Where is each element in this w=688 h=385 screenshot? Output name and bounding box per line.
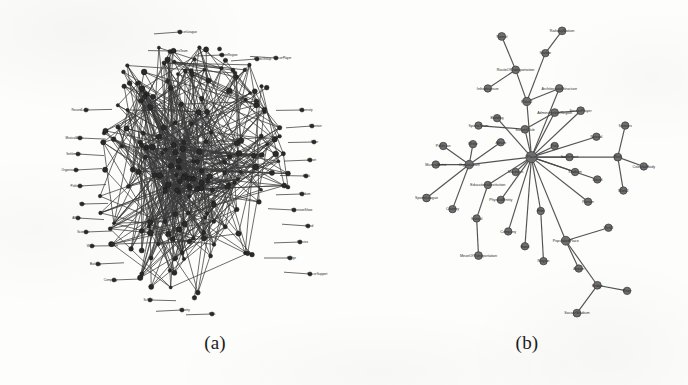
svg-text:Mountain: Mountain: [309, 124, 322, 128]
svg-text:AdminRegion: AdminRegion: [219, 53, 238, 57]
svg-text:Place2: Place2: [521, 100, 532, 104]
svg-text:Organisation: Organisation: [459, 163, 480, 167]
svg-text:SoccerPlayer: SoccerPlayer: [273, 56, 291, 60]
svg-text:Bridge: Bridge: [592, 284, 603, 288]
svg-text:Book: Book: [303, 174, 311, 178]
svg-text:Building: Building: [490, 116, 503, 120]
panel-a-dense-graph: SoccerLeagueSportsTeamAdminRegionEthnicG…: [36, 18, 348, 328]
figure-root: SoccerLeagueSportsTeamAdminRegionEthnicG…: [0, 0, 688, 385]
svg-text:Park: Park: [551, 144, 559, 148]
svg-text:Band: Band: [521, 245, 530, 249]
caption-panel-b: (b): [472, 332, 582, 354]
svg-text:ArchitecturalStructure: ArchitecturalStructure: [541, 87, 577, 91]
svg-text:CelestialBody: CelestialBody: [632, 165, 655, 169]
svg-text:Organisation: Organisation: [61, 168, 79, 172]
svg-text:Politician: Politician: [436, 144, 451, 148]
svg-text:Film: Film: [79, 202, 85, 206]
svg-text:RailwayStation: RailwayStation: [550, 29, 575, 33]
svg-text:MusicalArtist: MusicalArtist: [425, 163, 446, 167]
svg-text:Building: Building: [90, 262, 101, 266]
svg-text:Stadium: Stadium: [299, 192, 311, 196]
svg-text:RouteOfTransportation: RouteOfTransportation: [497, 68, 535, 72]
svg-text:AdministrativeRegion: AdministrativeRegion: [537, 111, 572, 115]
svg-text:MeanOfTransportation: MeanOfTransportation: [460, 254, 497, 258]
svg-text:SoccerSupport: SoccerSupport: [307, 272, 328, 276]
svg-text:Park: Park: [209, 312, 216, 316]
svg-text:MusicalArtist: MusicalArtist: [65, 136, 83, 140]
svg-text:EducationalInstitution: EducationalInstitution: [470, 183, 505, 187]
svg-text:TelevisionShow: TelevisionShow: [291, 208, 313, 212]
svg-text:Country: Country: [446, 207, 459, 211]
svg-text:Island: Island: [592, 178, 602, 182]
svg-text:SportsLeague: SportsLeague: [415, 196, 438, 200]
svg-text:SoccerPlayer: SoccerPlayer: [570, 109, 593, 113]
svg-text:Country: Country: [179, 308, 190, 312]
panel-b-svg: PlacePlace2RouteOfTransportationTunnelSt…: [406, 16, 668, 328]
caption-panel-a: (a): [160, 332, 270, 354]
svg-text:Natural: Natural: [590, 135, 602, 139]
svg-text:Infrastructure: Infrastructure: [477, 87, 499, 91]
svg-text:SoccerClub: SoccerClub: [515, 128, 534, 132]
svg-text:River: River: [623, 289, 632, 293]
svg-text:School: School: [471, 217, 483, 221]
svg-text:Writer: Writer: [87, 244, 95, 248]
panel-b-star-graph: PlacePlace2RouteOfTransportationTunnelSt…: [406, 16, 668, 328]
svg-text:Scientist: Scientist: [77, 230, 89, 234]
svg-text:Stadium: Stadium: [568, 170, 582, 174]
svg-text:Park2: Park2: [604, 226, 614, 230]
svg-text:EthnicGroup: EthnicGroup: [254, 57, 271, 61]
svg-text:Person: Person: [582, 200, 594, 204]
svg-text:Company: Company: [104, 278, 118, 282]
svg-text:Settlement: Settlement: [66, 152, 81, 156]
svg-text:Airport: Airport: [307, 158, 316, 162]
svg-text:SoccerStadium: SoccerStadium: [564, 311, 589, 315]
svg-text:Bridge: Bridge: [287, 256, 296, 260]
svg-text:Species: Species: [297, 240, 308, 244]
svg-text:PopulatedPlace: PopulatedPlace: [553, 239, 579, 243]
svg-text:Album: Album: [496, 141, 507, 145]
svg-text:Station: Station: [540, 51, 552, 55]
svg-text:River: River: [311, 140, 318, 144]
svg-text:Work2: Work2: [618, 189, 629, 193]
svg-text:SoccerLeague: SoccerLeague: [177, 30, 197, 34]
svg-text:Mountain: Mountain: [508, 170, 523, 174]
svg-text:Island: Island: [305, 224, 314, 228]
panel-a-svg: SoccerLeagueSportsTeamAdminRegionEthnicG…: [36, 18, 348, 328]
svg-text:Writer: Writer: [468, 142, 479, 146]
svg-text:Airport: Airport: [573, 267, 584, 271]
svg-text:Tunnel: Tunnel: [496, 35, 507, 39]
svg-text:School: School: [144, 298, 154, 302]
svg-text:Work: Work: [613, 155, 622, 159]
svg-text:University: University: [299, 108, 313, 112]
svg-text:RecordLabel: RecordLabel: [71, 108, 89, 112]
svg-text:Film: Film: [537, 209, 544, 213]
svg-text:PhysicalEntity: PhysicalEntity: [489, 198, 512, 202]
svg-text:Place: Place: [527, 155, 536, 159]
svg-text:SportsTeam: SportsTeam: [469, 124, 489, 128]
svg-text:Species: Species: [619, 124, 632, 128]
svg-text:Region: Region: [538, 259, 550, 263]
svg-text:Company: Company: [500, 230, 516, 234]
svg-text:Politician: Politician: [71, 184, 84, 188]
svg-text:Settlement: Settlement: [561, 155, 579, 159]
svg-text:Album: Album: [72, 216, 81, 220]
